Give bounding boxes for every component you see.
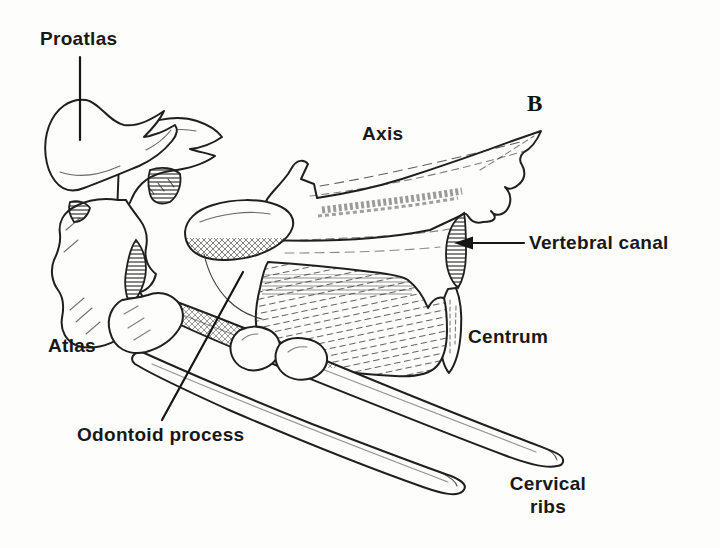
label-cervical-ribs: Cervical ribs (500, 472, 596, 518)
label-proatlas: Proatlas (40, 28, 117, 50)
label-atlas: Atlas (48, 335, 96, 357)
label-axis: Axis (362, 123, 403, 145)
figure-panel: Proatlas Axis B Vertebral canal Atlas Ce… (0, 0, 720, 548)
axis-neural-spine (262, 131, 541, 253)
atlas-intercentrum (109, 293, 183, 353)
label-odontoid-process: Odontoid process (77, 424, 244, 446)
vertebral-canal-opening (446, 213, 466, 288)
label-cervical-ribs-line2: ribs (530, 496, 566, 517)
label-cervical-ribs-line1: Cervical (510, 473, 586, 494)
label-centrum: Centrum (468, 326, 548, 348)
label-vertebral-canal: Vertebral canal (529, 232, 669, 254)
panel-letter-b: B (527, 91, 542, 117)
atlas-spine-notch-hatch (149, 168, 181, 204)
vertebrae-illustration (0, 0, 720, 548)
